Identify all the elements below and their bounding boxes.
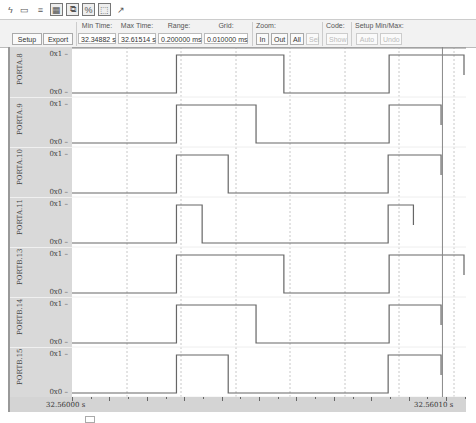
axis-tick — [240, 397, 241, 399]
axis-tick — [72, 397, 73, 401]
low-value-label: 0x0 – — [49, 388, 68, 396]
signal-row-label[interactable]: PORTB.130x1 –0x0 – — [10, 247, 72, 298]
range-field[interactable]: 0.200000 ms — [158, 33, 202, 44]
signal-name: PORTA.11 — [16, 199, 24, 235]
export-button[interactable]: Export — [43, 33, 73, 45]
pin-icon[interactable]: ↗ — [114, 3, 127, 16]
high-value-label: 0x1 – — [49, 150, 68, 158]
auto-button[interactable]: Auto — [356, 33, 378, 45]
divider — [322, 22, 323, 46]
signal-name: PORTB.14 — [16, 298, 24, 335]
signal-label-panel: PORTA.80x1 –0x0 –PORTA.90x1 –0x0 –PORTA.… — [10, 47, 72, 397]
waveform-plot[interactable] — [72, 47, 466, 397]
signal-name: PORTB.13 — [16, 248, 24, 285]
range-label: Range: — [158, 22, 200, 29]
high-value-label: 0x1 – — [49, 350, 68, 358]
divider — [252, 22, 253, 46]
control-panel: Setup Export Min Time: 32.34882 s Max Ti… — [0, 19, 476, 48]
signal-row-label[interactable]: PORTA.80x1 –0x0 – — [10, 47, 72, 98]
axis-tick — [315, 397, 316, 399]
low-value-label: 0x0 – — [49, 338, 68, 346]
axis-tick — [409, 397, 410, 401]
max-time-label: Max Time: — [118, 22, 156, 29]
high-value-label: 0x1 – — [49, 250, 68, 258]
divider — [76, 22, 77, 46]
waveform-porta-8 — [72, 55, 464, 93]
axis-tick — [353, 397, 354, 399]
signal-name: PORTA.8 — [16, 53, 24, 85]
axis-tick — [109, 397, 110, 401]
layers-icon[interactable]: ⧉ — [66, 3, 79, 16]
code-label: Code: — [326, 22, 345, 29]
axis-tick — [166, 397, 167, 399]
grid-label: Grid: — [204, 22, 248, 29]
axis-tick — [465, 397, 466, 399]
window-icon[interactable]: ▭ — [18, 3, 31, 16]
zoom-all-button[interactable]: All — [290, 33, 304, 45]
grid-icon[interactable]: ▦ — [50, 3, 63, 16]
zoom-in-button[interactable]: In — [256, 33, 269, 45]
undo-button[interactable]: Undo — [380, 33, 402, 45]
axis-tick — [371, 397, 372, 401]
axis-start-label: 32.56000 s — [46, 401, 85, 409]
lightning-icon[interactable]: ϟ — [4, 3, 17, 16]
grid-field[interactable]: 0.010000 ms — [204, 33, 248, 44]
zoom-out-button[interactable]: Out — [271, 33, 288, 45]
high-value-label: 0x1 – — [49, 100, 68, 108]
waveform-portb-13 — [72, 255, 464, 293]
axis-tick — [91, 397, 92, 399]
signal-name: PORTA.9 — [16, 103, 24, 135]
high-value-label: 0x1 – — [49, 200, 68, 208]
axis-tick — [184, 397, 185, 401]
axis-tick — [446, 397, 447, 401]
high-value-label: 0x1 – — [49, 300, 68, 308]
capture-icon[interactable]: ⬚ — [98, 3, 111, 16]
low-value-label: 0x0 – — [49, 288, 68, 296]
axis-tick — [334, 397, 335, 401]
divider — [351, 22, 352, 46]
toolbar: ϟ ▭ ≡ ▦ ⧉ % ⬚ ↗ — [0, 0, 476, 18]
axis-tick — [128, 397, 129, 399]
min-time-label: Min Time: — [78, 22, 116, 29]
waveform-porta-11 — [72, 205, 413, 243]
axis-tick — [390, 397, 391, 399]
low-value-label: 0x0 – — [49, 238, 68, 246]
axis-tick — [203, 397, 204, 399]
low-value-label: 0x0 – — [49, 188, 68, 196]
zoom-label: Zoom: — [256, 22, 276, 29]
signal-name: PORTA.10 — [16, 149, 24, 185]
low-value-label: 0x0 – — [49, 138, 68, 146]
axis-tick — [278, 397, 279, 399]
max-time-field[interactable]: 32.61514 s — [118, 33, 156, 44]
signal-row-label[interactable]: PORTB.140x1 –0x0 – — [10, 297, 72, 348]
signal-row-label[interactable]: PORTA.100x1 –0x0 – — [10, 147, 72, 198]
setup-minmax-label: Setup Min/Max: — [355, 22, 404, 29]
time-axis: 32.56000 s 32.56010 s — [10, 397, 466, 412]
axis-tick — [296, 397, 297, 401]
axis-tick — [427, 397, 428, 399]
axis-tick — [259, 397, 260, 401]
setup-button[interactable]: Setup — [12, 33, 42, 45]
min-time-field[interactable]: 32.34882 s — [78, 33, 116, 44]
low-value-label: 0x0 – — [49, 88, 68, 96]
footer-icon — [85, 416, 95, 423]
link-icon[interactable]: % — [82, 3, 95, 16]
show-code-button[interactable]: Show — [326, 33, 348, 45]
signal-row-label[interactable]: PORTA.110x1 –0x0 – — [10, 197, 72, 248]
axis-tick — [147, 397, 148, 401]
zoom-sel-button[interactable]: Sel — [306, 33, 319, 45]
signal-name: PORTB.15 — [16, 348, 24, 385]
axis-end-label: 32.56010 s — [414, 401, 453, 409]
signal-row-label[interactable]: PORTB.150x1 –0x0 – — [10, 347, 72, 398]
high-value-label: 0x1 – — [49, 50, 68, 58]
axis-tick — [222, 397, 223, 401]
signal-row-label[interactable]: PORTA.90x1 –0x0 – — [10, 97, 72, 148]
list-icon[interactable]: ≡ — [34, 3, 47, 16]
